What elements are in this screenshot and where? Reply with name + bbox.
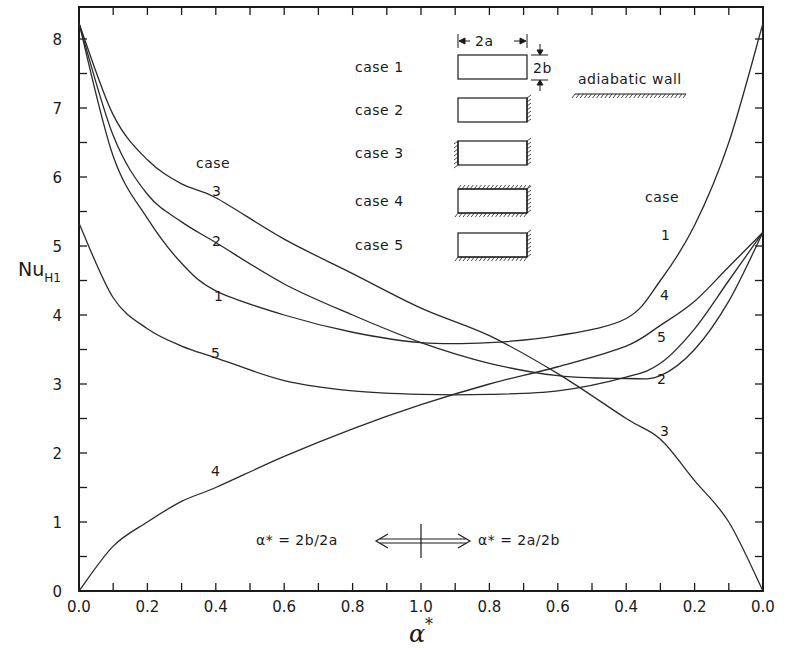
legend-case-label: case 3 bbox=[355, 145, 404, 161]
curve-label-case-4-left: 4 bbox=[211, 463, 220, 479]
dimension-2a: 2a bbox=[458, 33, 527, 49]
x-tick-label: 0.0 bbox=[67, 598, 91, 616]
y-tick-label: 6 bbox=[52, 169, 62, 187]
x-tick-label: 0.6 bbox=[546, 598, 570, 616]
y-tick-label: 1 bbox=[52, 514, 62, 532]
duct-cross-section-icon bbox=[458, 98, 527, 122]
x-tick-label: 0.8 bbox=[341, 598, 365, 616]
x-tick-labels: 0.00.20.40.60.81.00.80.60.40.20.0 bbox=[67, 598, 775, 616]
legend: 2a 2b adiabatic wall case 1case 2case 3c… bbox=[355, 33, 686, 261]
chart: 012345678 0.00.20.40.60.81.00.80.60.40.2… bbox=[0, 0, 786, 653]
alpha-right-definition: α* = 2a/2b bbox=[478, 532, 560, 548]
curve-label-case-1-left: 1 bbox=[214, 288, 223, 304]
y-tick-label: 3 bbox=[52, 376, 62, 394]
legend-case-5: case 5 bbox=[355, 230, 531, 261]
x-tick-label: 0.4 bbox=[204, 598, 228, 616]
curve-label-case-2-right: 2 bbox=[657, 371, 666, 387]
legend-case-3: case 3 bbox=[355, 138, 531, 168]
x-axis-label: α* bbox=[409, 615, 433, 648]
y-tick-label: 0 bbox=[52, 583, 62, 601]
x-tick-label: 0.2 bbox=[135, 598, 159, 616]
curve-case-3 bbox=[79, 23, 763, 591]
duct-cross-section-icon bbox=[458, 189, 527, 213]
y-tick-label: 7 bbox=[52, 100, 62, 118]
curve-label-case-5-left: 5 bbox=[211, 345, 220, 361]
legend-case-1: case 1 bbox=[355, 55, 527, 79]
y-tick-label: 8 bbox=[52, 31, 62, 49]
legend-case-4: case 4 bbox=[355, 185, 531, 217]
curve-label-header-left: case bbox=[196, 155, 230, 171]
curve-case-5 bbox=[79, 223, 763, 395]
legend-case-label: case 2 bbox=[355, 102, 404, 118]
legend-case-label: case 4 bbox=[355, 193, 404, 209]
alpha-definition: α* = 2b/2a α* = 2a/2b bbox=[256, 524, 560, 558]
svg-text:2b: 2b bbox=[533, 60, 552, 76]
y-tick-label: 5 bbox=[52, 238, 62, 256]
dimension-2b: 2b bbox=[531, 44, 552, 91]
x-tick-label: 0.2 bbox=[683, 598, 707, 616]
curve-label-case-1-right: 1 bbox=[661, 227, 670, 243]
x-tick-label: 0.0 bbox=[751, 598, 775, 616]
legend-cases: case 1case 2case 3case 4case 5 bbox=[355, 55, 531, 261]
adiabatic-wall-sample bbox=[572, 94, 686, 98]
adiabatic-wall-label: adiabatic wall bbox=[578, 71, 682, 87]
y-tick-label: 2 bbox=[52, 445, 62, 463]
curve-label-header-right: case bbox=[645, 189, 679, 205]
y-axis-label: NuH1 bbox=[18, 258, 61, 285]
y-tick-labels: 012345678 bbox=[52, 31, 62, 601]
curve-label-case-3-left: 3 bbox=[212, 183, 221, 199]
y-tick-label: 4 bbox=[52, 307, 62, 325]
legend-case-2: case 2 bbox=[355, 95, 531, 122]
x-tick-label: 0.8 bbox=[477, 598, 501, 616]
curves bbox=[79, 23, 763, 591]
curve-label-case-2-left: 2 bbox=[212, 233, 221, 249]
svg-text:2a: 2a bbox=[475, 33, 494, 49]
duct-cross-section-icon bbox=[458, 233, 527, 257]
x-tick-label: 1.0 bbox=[409, 598, 433, 616]
double-arrow-icon bbox=[376, 524, 470, 558]
curve-labels-right: case 1 4 5 2 3 bbox=[645, 189, 679, 439]
curve-label-case-3-right: 3 bbox=[660, 423, 669, 439]
duct-cross-section-icon bbox=[458, 141, 527, 165]
duct-cross-section-icon bbox=[458, 55, 527, 79]
curve-label-case-5-right: 5 bbox=[657, 329, 666, 345]
curve-label-case-4-right: 4 bbox=[660, 287, 669, 303]
legend-case-label: case 1 bbox=[355, 59, 404, 75]
x-tick-label: 0.6 bbox=[272, 598, 296, 616]
legend-case-label: case 5 bbox=[355, 237, 404, 253]
x-tick-label: 0.4 bbox=[614, 598, 638, 616]
alpha-left-definition: α* = 2b/2a bbox=[256, 532, 338, 548]
